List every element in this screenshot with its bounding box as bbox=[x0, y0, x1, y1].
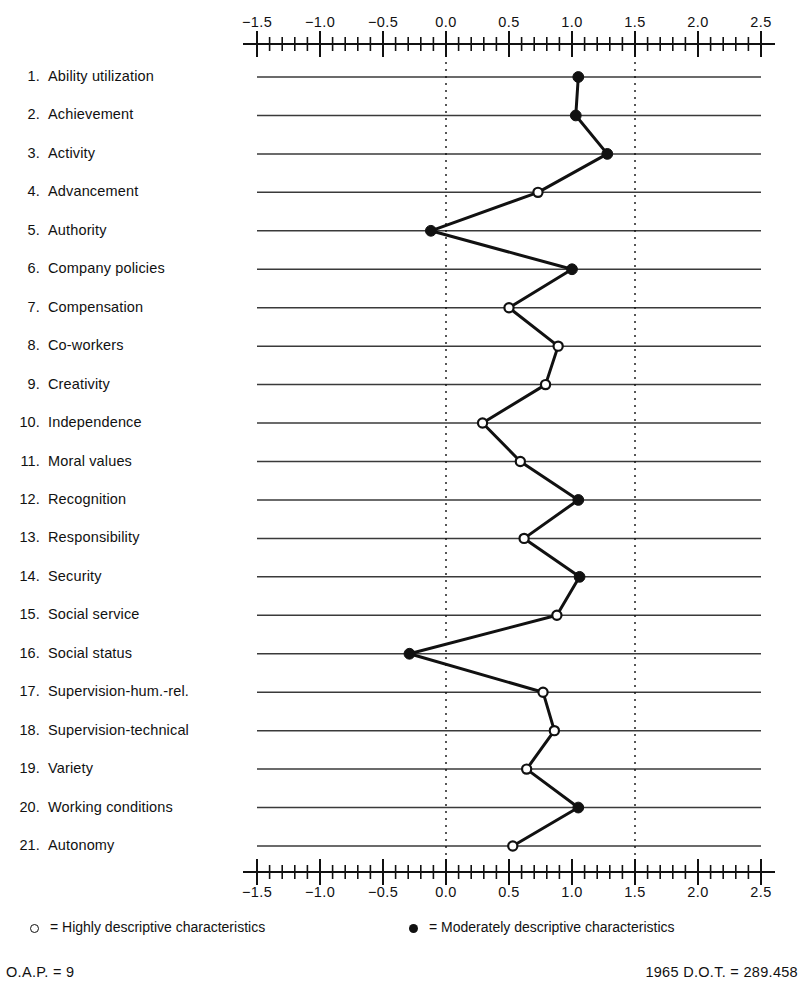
data-point-open-18[interactable] bbox=[550, 726, 559, 735]
data-point-open-13[interactable] bbox=[520, 534, 529, 543]
data-point-open-8[interactable] bbox=[554, 342, 563, 351]
data-point-filled-16[interactable] bbox=[404, 648, 415, 659]
data-point-filled-5[interactable] bbox=[425, 225, 436, 236]
data-point-open-21[interactable] bbox=[508, 841, 517, 850]
data-point-open-19[interactable] bbox=[522, 765, 531, 774]
data-point-filled-20[interactable] bbox=[573, 802, 584, 813]
legend-filled-circle-icon bbox=[409, 924, 418, 933]
data-point-filled-3[interactable] bbox=[602, 149, 613, 160]
legend-open-circle-icon bbox=[30, 924, 39, 933]
data-point-open-7[interactable] bbox=[504, 303, 513, 312]
data-point-open-11[interactable] bbox=[516, 457, 525, 466]
data-point-filled-1[interactable] bbox=[573, 72, 584, 83]
footer-right-text: 1965 D.O.T. = 289.458 bbox=[645, 964, 798, 980]
data-point-filled-12[interactable] bbox=[573, 495, 584, 506]
data-point-filled-2[interactable] bbox=[570, 110, 581, 121]
data-point-open-4[interactable] bbox=[533, 188, 542, 197]
data-point-filled-6[interactable] bbox=[567, 264, 578, 275]
profile-plot bbox=[0, 0, 804, 987]
data-point-open-17[interactable] bbox=[538, 688, 547, 697]
data-point-filled-14[interactable] bbox=[574, 571, 585, 582]
chart-canvas: −1.5−1.0−0.50.00.51.01.52.02.5 −1.5−1.0−… bbox=[0, 0, 804, 987]
footer-left-text: O.A.P. = 9 bbox=[6, 964, 74, 980]
legend-filled-label: = Moderately descriptive characteristics bbox=[429, 919, 675, 935]
data-point-open-10[interactable] bbox=[478, 418, 487, 427]
data-point-open-9[interactable] bbox=[541, 380, 550, 389]
legend-open-label: = Highly descriptive characteristics bbox=[50, 919, 265, 935]
data-point-open-15[interactable] bbox=[552, 611, 561, 620]
